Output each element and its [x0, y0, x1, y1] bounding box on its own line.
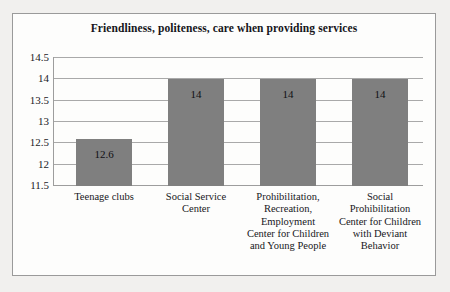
x-axis-category-label: Prohibilitation, Recreation, Employment …	[246, 191, 330, 252]
y-axis-tick-label: 11.5	[30, 179, 49, 191]
x-axis-category-label: Social Service Center	[154, 191, 238, 216]
bar-social-prohibilitation-center[interactable]: 14	[352, 79, 408, 187]
bar-value-label: 14	[168, 88, 224, 100]
chart-frame: Friendliness, politeness, care when prov…	[12, 13, 436, 276]
bar-value-label: 12.6	[76, 148, 132, 160]
y-axis-tick-label: 13.5	[30, 94, 49, 106]
y-axis-tick-label: 12.5	[30, 136, 49, 148]
y-axis-tick-label: 12	[38, 158, 49, 170]
bar-social-service-center[interactable]: 14	[168, 79, 224, 187]
gridline: 14.5	[54, 57, 423, 58]
bar-value-label: 14	[352, 88, 408, 100]
y-axis-tick-label: 14	[38, 72, 49, 84]
bar-value-label: 14	[260, 88, 316, 100]
y-axis-tick-label: 13	[38, 115, 49, 127]
y-axis-tick-label: 14.5	[30, 51, 49, 63]
plot-area: 14.5 14 13.5 13 12.5 12 11.5 12.6 14 14	[53, 57, 423, 186]
bar-teenage-clubs[interactable]: 12.6	[76, 139, 132, 186]
x-axis-category-label: Teenage clubs	[62, 191, 146, 203]
bar-prohibilitation-recreation-employment-center[interactable]: 14	[260, 79, 316, 187]
chart-title: Friendliness, politeness, care when prov…	[13, 22, 435, 34]
x-axis-category-label: Social Prohibilitation Center for Childr…	[338, 191, 422, 252]
